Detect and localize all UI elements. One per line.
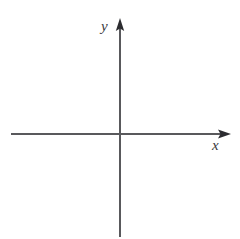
y-axis-label: y [101,19,108,34]
coordinate-axes-diagram: y x [0,0,240,239]
axes-canvas [0,0,240,239]
x-axis-label: x [212,138,219,153]
